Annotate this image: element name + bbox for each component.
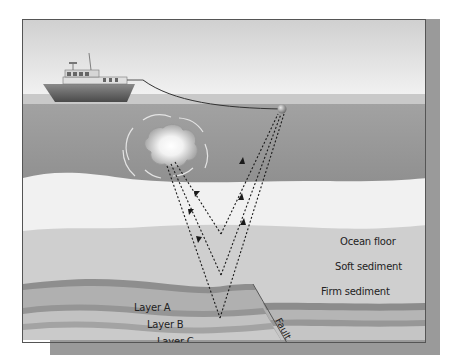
label-layer-c: Layer C [157, 336, 194, 343]
diagram-frame: Ocean floor Soft sediment Firm sediment … [22, 19, 426, 343]
hydrophone-buoy [278, 105, 287, 114]
label-ocean-floor: Ocean floor [340, 236, 396, 247]
label-layer-a: Layer A [134, 302, 171, 313]
label-soft-sediment: Soft sediment [335, 261, 402, 272]
label-firm-sediment: Firm sediment [321, 286, 390, 297]
label-layer-b: Layer B [147, 319, 184, 330]
